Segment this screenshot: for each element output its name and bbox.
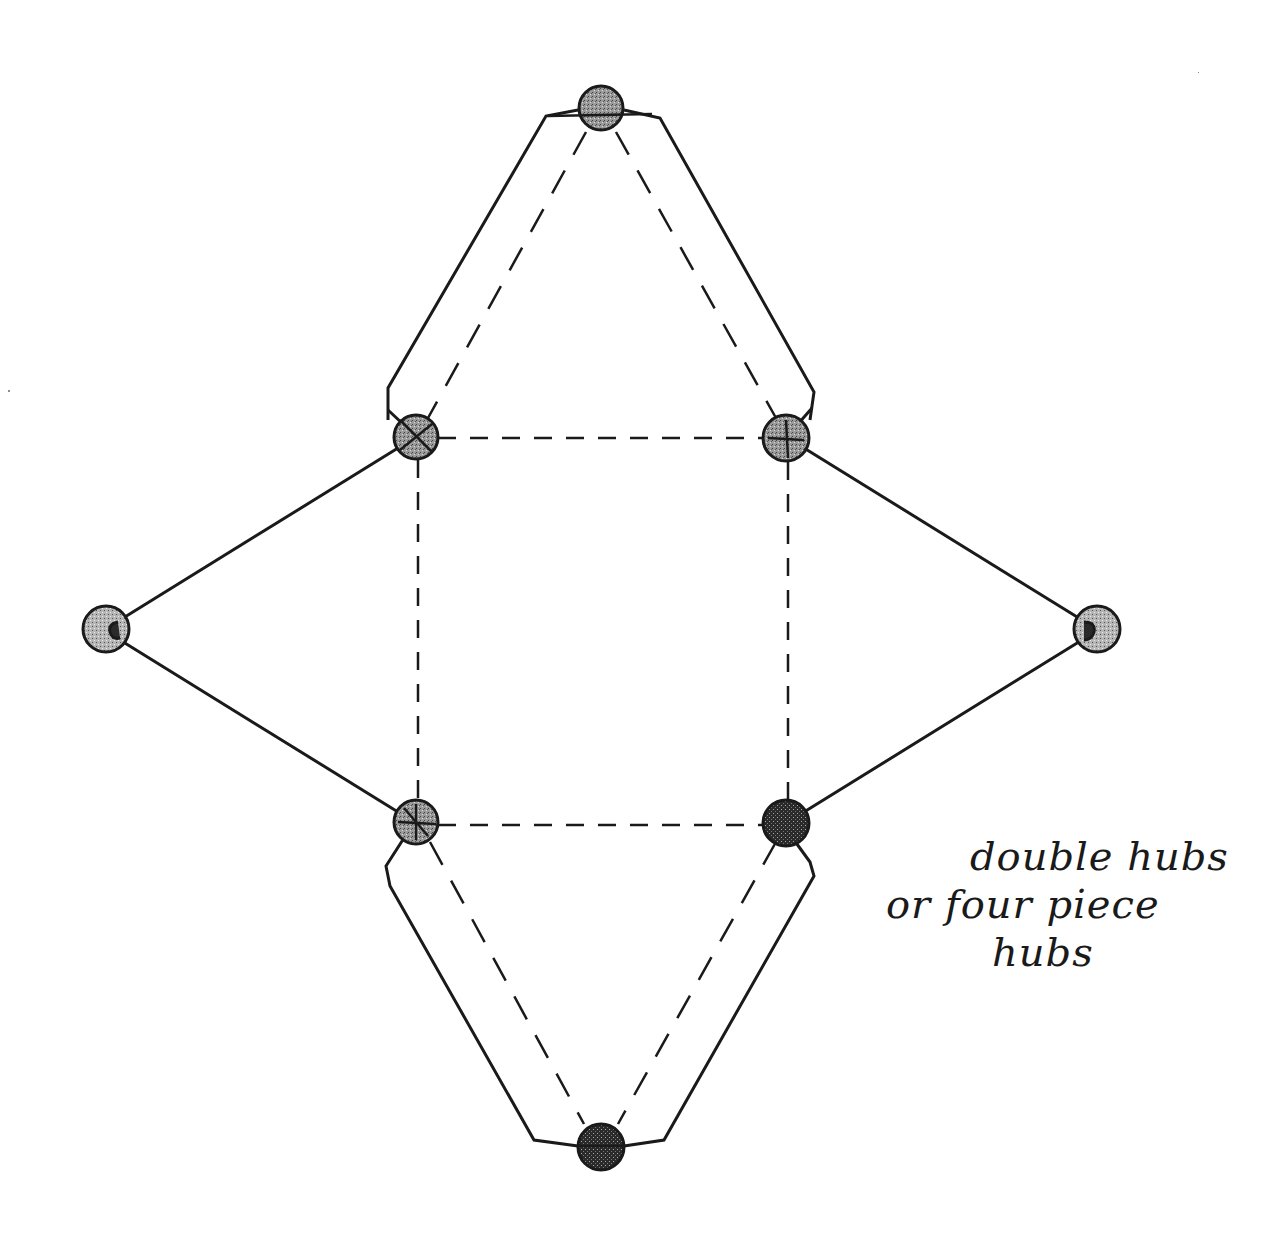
hub-lower-left [394,800,438,844]
top-flap [388,110,814,425]
hub-upper-right [763,415,809,461]
hub-top [548,86,652,130]
stray-mark [8,390,10,392]
left-triangle-flap [120,448,398,812]
right-triangle-flap [804,448,1082,812]
hubs [83,86,1120,1170]
hub-lower-right [763,800,809,846]
annotation-line-2: or four piece [886,884,1160,924]
hub-right [1074,606,1120,652]
hub-bottom [578,1124,624,1170]
hub-upper-left [394,415,438,459]
annotation-line-3: hubs [992,932,1094,972]
bottom-flap [386,838,814,1146]
pyramid-net-diagram [0,0,1288,1240]
stray-mark [1198,72,1199,73]
hub-left [83,606,129,652]
annotation-line-1: double hubs [970,836,1229,876]
center-square-fold-lines [418,438,788,825]
